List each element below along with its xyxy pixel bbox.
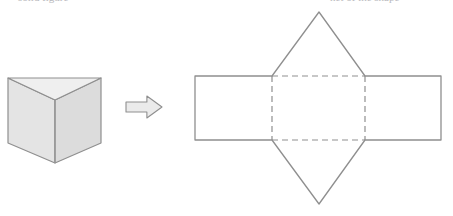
prism-net-illustration: Triangular prism and its net: [0, 0, 453, 216]
net-top-triangle-fill: [272, 12, 365, 76]
arrow-right-icon: [126, 96, 162, 118]
net-right-rectangle-fill: [365, 76, 441, 140]
diagram-canvas: solid figure net of the shape Triangular…: [0, 0, 453, 216]
net-left-rectangle-fill: [195, 76, 272, 140]
prism-net: [195, 12, 441, 204]
transformation-arrow: [126, 96, 162, 118]
net-bottom-triangle-fill: [272, 140, 365, 204]
triangular-prism: [8, 78, 101, 163]
net-center-rectangle-fill: [272, 76, 365, 140]
